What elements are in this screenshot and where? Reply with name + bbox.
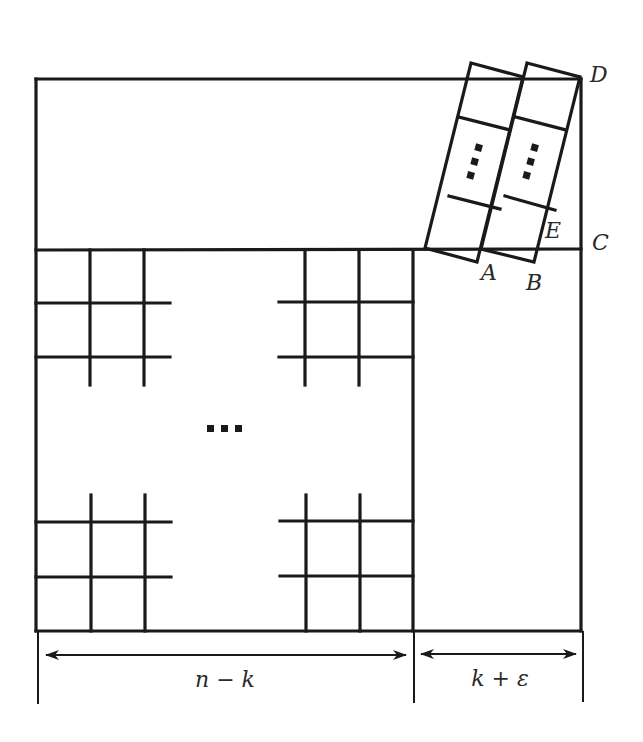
label-point-d: D <box>589 62 608 87</box>
label-point-c: C <box>592 230 609 255</box>
grid-bottom-right <box>280 495 413 631</box>
label-point-b: B <box>525 270 542 295</box>
label-point-a: A <box>479 260 497 285</box>
grid-top-left <box>36 250 170 385</box>
tilted-strip-1 <box>425 63 523 262</box>
inner-divisions <box>36 249 581 631</box>
label-point-e: E <box>544 218 561 243</box>
dimension-label-left: n − k <box>195 667 255 692</box>
dimension-label-right: k + ε <box>471 666 529 691</box>
packing-diagram: D C E A B n − k k + ε <box>0 0 643 742</box>
tilted-strip-2 <box>481 63 580 262</box>
center-ellipsis <box>207 425 242 432</box>
grid-top-right <box>279 250 413 385</box>
grid-bottom-left <box>36 495 171 631</box>
outer-frame <box>36 79 581 631</box>
